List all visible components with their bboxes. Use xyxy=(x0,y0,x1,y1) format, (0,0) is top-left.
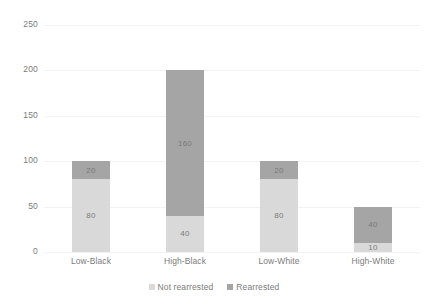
chart-legend: Not rearrestedRearrested xyxy=(0,280,428,294)
legend-swatch-icon xyxy=(149,284,155,290)
bar-data-label: 40 xyxy=(180,229,189,238)
legend-label: Rearrested xyxy=(236,282,279,292)
bar-group[interactable]: 2080 xyxy=(72,161,110,252)
bar-data-label: 10 xyxy=(368,243,377,252)
x-axis-category-label: High-Black xyxy=(140,256,230,267)
x-axis: Low-BlackHigh-BlackLow-WhiteHigh-White xyxy=(44,256,420,270)
bar-segment[interactable]: 40 xyxy=(354,207,392,243)
bar-segment[interactable]: 80 xyxy=(72,179,110,252)
bars-layer: 20801604020804010 xyxy=(44,25,420,252)
y-axis-tick-label: 100 xyxy=(23,156,38,165)
bar-segment[interactable]: 20 xyxy=(260,161,298,179)
x-axis-category-label: High-White xyxy=(328,256,418,267)
bar-data-label: 20 xyxy=(86,166,95,175)
legend-label: Not rearrested xyxy=(158,282,214,292)
bar-data-label: 80 xyxy=(274,211,283,220)
bar-data-label: 160 xyxy=(178,139,192,148)
legend-swatch-icon xyxy=(227,284,233,290)
bar-group[interactable]: 4010 xyxy=(354,207,392,252)
y-axis-tick-label: 150 xyxy=(23,111,38,120)
bar-segment[interactable]: 40 xyxy=(166,216,204,252)
stacked-bar-chart: 250200150100500 20801604020804010 Low-Bl… xyxy=(0,0,428,305)
bar-segment[interactable]: 160 xyxy=(166,70,204,215)
bar-group[interactable]: 16040 xyxy=(166,70,204,252)
bar-data-label: 80 xyxy=(86,211,95,220)
bar-segment[interactable]: 80 xyxy=(260,179,298,252)
y-axis-tick-label: 0 xyxy=(33,247,38,256)
y-axis-tick-label: 200 xyxy=(23,65,38,74)
bar-data-label: 20 xyxy=(274,166,283,175)
legend-item[interactable]: Not rearrested xyxy=(149,282,214,292)
bar-segment[interactable]: 20 xyxy=(72,161,110,179)
y-axis-tick-label: 250 xyxy=(23,20,38,29)
x-axis-category-label: Low-Black xyxy=(46,256,136,267)
y-axis-tick-label: 50 xyxy=(28,202,38,211)
y-axis: 250200150100500 xyxy=(0,25,38,252)
bar-segment[interactable]: 10 xyxy=(354,243,392,252)
bar-group[interactable]: 2080 xyxy=(260,161,298,252)
bar-data-label: 40 xyxy=(368,220,377,229)
legend-item[interactable]: Rearrested xyxy=(227,282,279,292)
x-axis-category-label: Low-White xyxy=(234,256,324,267)
gridline xyxy=(44,252,420,253)
